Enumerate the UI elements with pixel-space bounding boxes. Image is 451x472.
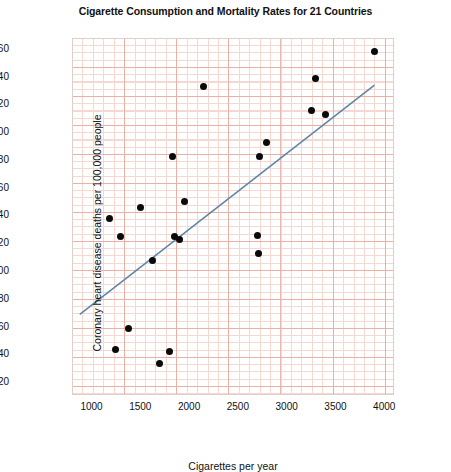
data-point <box>149 257 156 264</box>
y-tick-label: 80 <box>0 292 9 303</box>
y-axis-label: Coronary heart disease deaths per 100,00… <box>91 53 103 413</box>
data-point <box>106 215 113 222</box>
data-points-layer <box>72 38 394 395</box>
data-point <box>263 139 270 146</box>
data-point <box>312 75 319 82</box>
data-point <box>137 204 144 211</box>
y-tick-label: 180 <box>0 153 9 164</box>
data-point <box>254 232 261 239</box>
y-tick-label: 140 <box>0 209 9 220</box>
x-axis-label: Cigarettes per year <box>72 460 394 472</box>
data-point <box>322 111 329 118</box>
data-point <box>308 107 315 114</box>
data-point <box>176 236 183 243</box>
x-tick-label: 4000 <box>354 401 414 412</box>
data-point <box>169 153 176 160</box>
data-point <box>255 250 262 257</box>
data-point <box>166 348 173 355</box>
y-tick-label: 120 <box>0 237 9 248</box>
y-tick-label: 40 <box>0 348 9 359</box>
y-tick-label: 240 <box>0 70 9 81</box>
data-point <box>112 346 119 353</box>
y-tick-label: 100 <box>0 264 9 275</box>
y-tick-label: 160 <box>0 181 9 192</box>
data-point <box>200 83 207 90</box>
data-point <box>256 153 263 160</box>
y-tick-label: 220 <box>0 98 9 109</box>
data-point <box>125 325 132 332</box>
y-tick-label: 60 <box>0 320 9 331</box>
chart-title: Cigarette Consumption and Mortality Rate… <box>0 5 451 17</box>
data-point <box>371 48 378 55</box>
data-point <box>181 198 188 205</box>
plot-area: 20406080100120140160180200220240260 1000… <box>72 38 394 395</box>
data-point <box>156 360 163 367</box>
y-tick-label: 200 <box>0 126 9 137</box>
y-tick-label: 20 <box>0 376 9 387</box>
data-point <box>117 233 124 240</box>
y-tick-label: 260 <box>0 42 9 53</box>
